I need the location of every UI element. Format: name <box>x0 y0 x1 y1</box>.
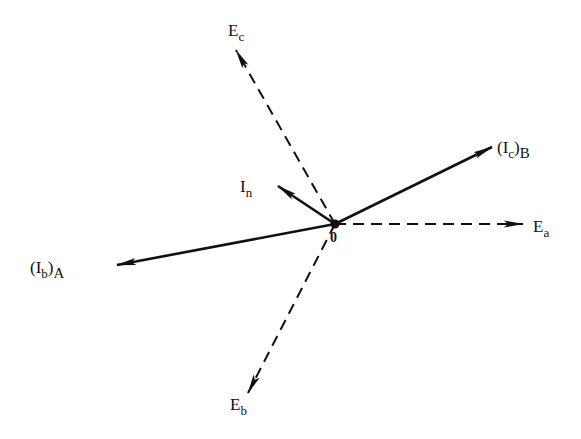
phasor-eb-arrow <box>248 224 335 393</box>
origin-point <box>331 220 340 229</box>
phasor-iba-arrow <box>117 224 335 265</box>
phasor-ec-label: Ec <box>228 21 244 44</box>
origin-label: 0 <box>330 230 337 245</box>
phasor-in-arrow <box>278 186 335 224</box>
phasor-iba-label: (Ib)A <box>30 258 65 281</box>
phasor-lines <box>117 50 523 393</box>
phasor-eb-label: Eb <box>230 395 247 418</box>
phasor-icb-label: (Ic)B <box>497 138 530 161</box>
phasor-labels: EaEbEc(Ic)B(Ib)AIn <box>30 21 549 418</box>
phasor-diagram: 0 EaEbEc(Ic)B(Ib)AIn <box>0 0 581 439</box>
phasor-ea-label: Ea <box>533 217 549 240</box>
phasor-icb-arrow <box>335 147 492 224</box>
phasor-in-label: In <box>240 177 253 200</box>
